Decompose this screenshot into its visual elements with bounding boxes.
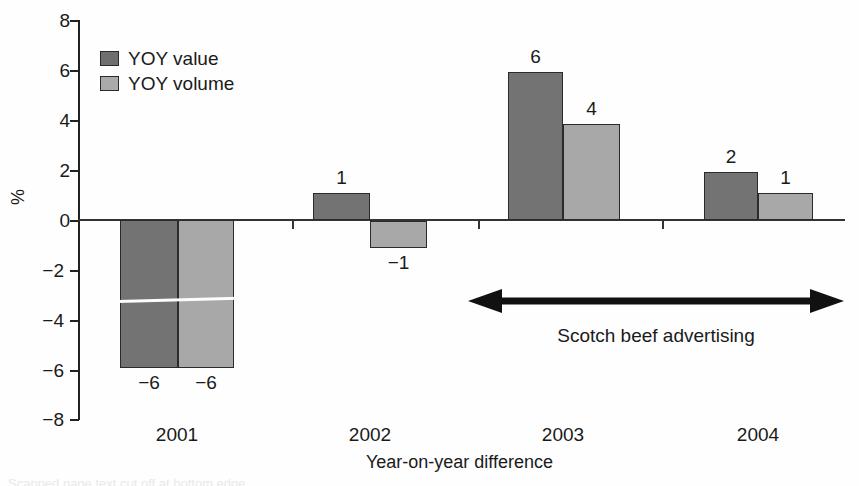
x-axis-title: Year-on-year difference	[0, 452, 859, 473]
y-axis-title: %	[8, 189, 29, 205]
double-headed-arrow-icon	[468, 288, 844, 314]
y-tick-label-2: 2	[24, 161, 70, 180]
bar-label-2001-yoy-volume: −6	[178, 372, 234, 394]
bar-2004-yoy-volume	[758, 193, 813, 220]
bar-2001-yoy-volume	[178, 220, 234, 368]
x-category-label-2001: 2001	[132, 424, 222, 446]
legend-swatch-dark-gray-icon	[100, 51, 119, 66]
y-tick-minus-6	[70, 370, 79, 372]
legend: YOY value YOY volume	[100, 46, 234, 96]
chart-figure: % 8 6 4 2 0 −2 −4 −6 −8 −6 −6 1 −1 6 4 2…	[0, 0, 859, 486]
y-tick-label-minus-2: −2	[18, 261, 64, 280]
x-tick-2002-2003	[478, 221, 480, 229]
y-tick-label-6: 6	[24, 61, 70, 80]
y-tick-label-0: 0	[24, 211, 70, 230]
bar-label-2001-yoy-value: −6	[120, 372, 178, 394]
bar-label-2002-yoy-value: 1	[313, 167, 370, 189]
x-axis-title-text: Year-on-year difference	[366, 452, 553, 472]
x-tick-2003-2004	[662, 221, 664, 229]
bottom-cut-text: Scanned page text cut off at bottom edge	[8, 477, 388, 486]
y-tick-label-8: 8	[24, 11, 70, 30]
legend-label-yoy-value: YOY value	[128, 49, 218, 68]
y-tick-label-minus-8: −8	[18, 410, 64, 429]
x-category-label-2004: 2004	[713, 424, 803, 446]
y-tick-label-4: 4	[24, 111, 70, 130]
bar-2002-yoy-value	[313, 193, 370, 220]
bar-2004-yoy-value	[704, 172, 758, 220]
y-tick-minus-4	[70, 320, 79, 322]
y-tick-8	[70, 20, 79, 22]
y-tick-minus-2	[70, 270, 79, 272]
annotation-label-scotch-beef-advertising: Scotch beef advertising	[468, 325, 844, 347]
y-tick-6	[70, 70, 79, 72]
bar-label-2003-yoy-volume: 4	[563, 98, 620, 120]
bar-label-2002-yoy-volume: −1	[370, 252, 427, 274]
x-category-label-2003: 2003	[518, 424, 608, 446]
bar-2003-yoy-value	[508, 72, 563, 220]
legend-swatch-light-gray-icon	[100, 76, 119, 91]
legend-item-yoy-value: YOY value	[100, 46, 234, 71]
legend-label-yoy-volume: YOY volume	[128, 74, 234, 93]
y-tick-label-minus-4: −4	[18, 311, 64, 330]
bar-2002-yoy-volume	[370, 221, 427, 248]
x-tick-2001-2002	[292, 221, 294, 229]
y-tick-label-minus-6: −6	[18, 361, 64, 380]
annotation-double-arrow	[468, 288, 844, 314]
y-tick-4	[70, 120, 79, 122]
x-category-label-2002: 2002	[325, 424, 415, 446]
y-tick-minus-8	[70, 419, 79, 421]
y-tick-2	[70, 170, 79, 172]
bar-2001-yoy-value	[120, 220, 178, 368]
bar-2003-yoy-volume	[563, 124, 620, 220]
bar-label-2004-yoy-value: 2	[704, 146, 758, 168]
legend-item-yoy-volume: YOY volume	[100, 71, 234, 96]
bar-label-2003-yoy-value: 6	[508, 46, 563, 68]
bar-label-2004-yoy-volume: 1	[758, 167, 813, 189]
